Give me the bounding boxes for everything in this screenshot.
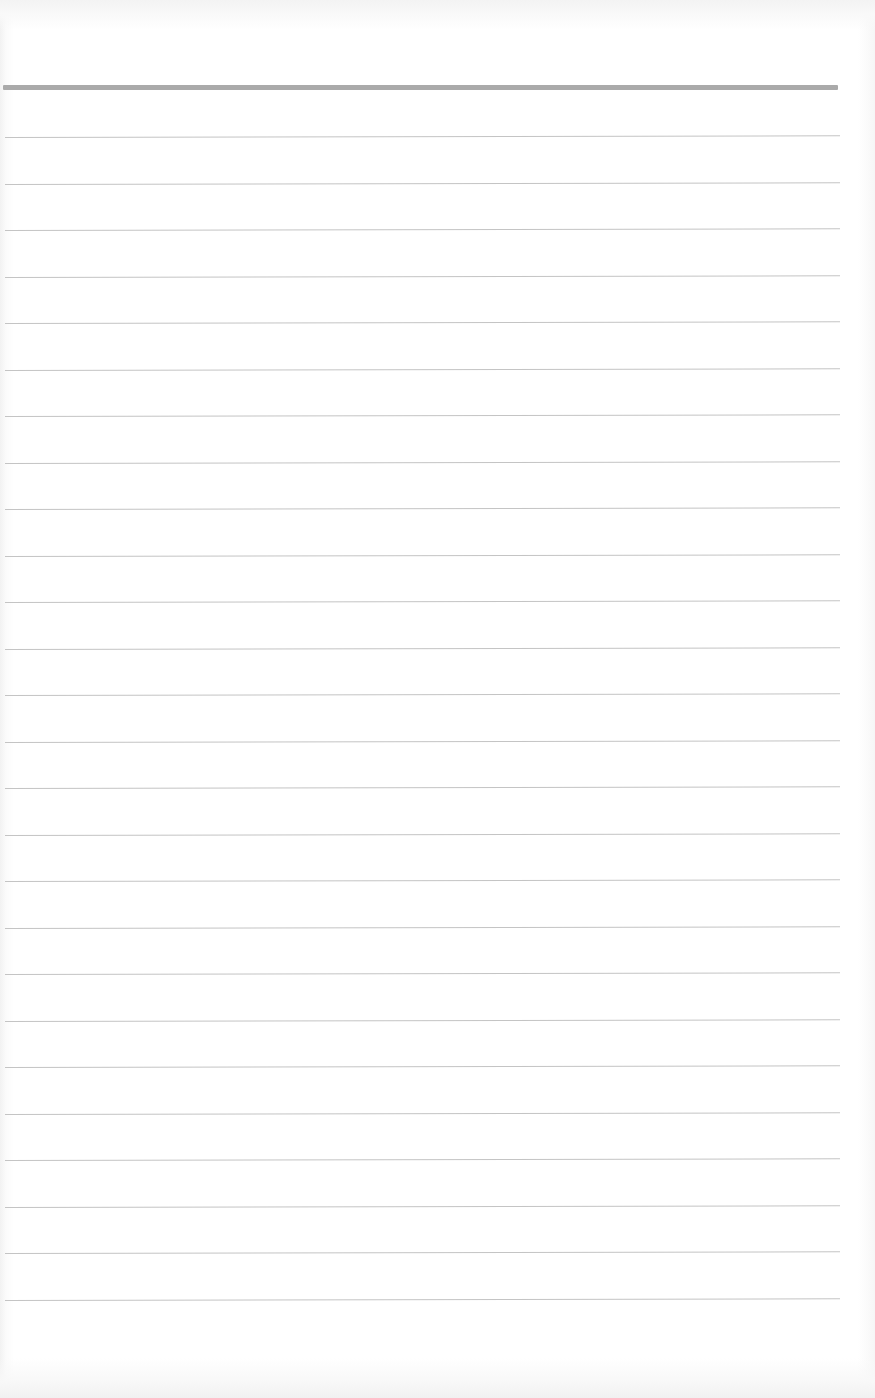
ruled-line <box>5 693 840 696</box>
ruled-line <box>5 1112 840 1115</box>
header-rule <box>3 85 838 90</box>
ruled-line <box>5 507 840 510</box>
scan-bleed-top <box>0 0 875 30</box>
ruled-line <box>5 1019 840 1022</box>
ruled-line <box>5 1158 840 1161</box>
ruled-line <box>5 321 840 324</box>
ruled-line <box>5 228 840 231</box>
ruled-line <box>5 1065 840 1068</box>
notebook-page <box>0 0 875 1398</box>
ruled-line <box>5 740 840 743</box>
ruled-line <box>5 182 840 185</box>
ruled-line <box>5 461 840 464</box>
ruled-line <box>5 368 840 371</box>
ruled-line <box>5 786 840 789</box>
ruled-line <box>5 135 840 138</box>
ruled-line <box>5 647 840 650</box>
ruled-line <box>5 833 840 836</box>
ruled-line <box>5 554 840 557</box>
ruled-line <box>5 879 840 882</box>
ruled-line <box>5 1298 840 1301</box>
ruled-line <box>5 275 840 278</box>
ruled-line <box>5 1205 840 1208</box>
ruled-line <box>5 926 840 929</box>
ruled-line <box>5 414 840 417</box>
scan-bleed-bottom <box>0 1358 875 1398</box>
ruled-line <box>5 972 840 975</box>
ruled-line <box>5 600 840 603</box>
ruled-line <box>5 1251 840 1254</box>
